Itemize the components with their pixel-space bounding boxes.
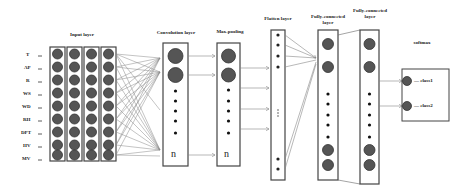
input-label-AP: AP xyxy=(24,65,31,70)
convolution-layer-title: Convolution layer xyxy=(150,30,202,36)
fc2-title-line2: layer xyxy=(348,14,392,20)
max-pooling-title: Max-pooling xyxy=(210,29,250,35)
fc1-title: Fully-connected layer xyxy=(306,14,350,26)
conv-n-label: n xyxy=(171,148,176,159)
input-to-conv-connections xyxy=(116,54,160,156)
fully-connected-layer-1 xyxy=(318,30,338,180)
input-label-HV: HV xyxy=(23,143,31,148)
pool-n-label: n xyxy=(224,148,229,159)
input-label-RH: RH xyxy=(23,117,31,122)
fully-connected-layer-2 xyxy=(360,30,379,184)
pool-to-flatten-arrows xyxy=(240,68,269,129)
fc2-to-softmax-arrows xyxy=(379,81,402,106)
input-label-MV: MV xyxy=(22,156,30,161)
input-label-DPT: DPT xyxy=(21,130,31,135)
conv-to-pool-arrows xyxy=(188,56,215,155)
input-label-WD: WD xyxy=(22,104,31,109)
input-label-T: T xyxy=(26,52,29,57)
fc1-to-fc2-connections xyxy=(338,30,360,184)
softmax-layer xyxy=(402,69,449,121)
input-layer-title: Input layer xyxy=(62,32,102,38)
output-label-class1: — class1 xyxy=(414,78,433,83)
softmax-title: softmax xyxy=(407,40,437,46)
fc1-title-line2: layer xyxy=(306,20,350,26)
flatten-to-fc1-connections xyxy=(285,35,316,169)
flatten-layer-title: Flatten layer xyxy=(258,16,298,22)
input-label-WS: WS xyxy=(23,91,31,96)
flatten-layer xyxy=(271,30,285,180)
fc2-title: Fully-connected layer xyxy=(348,8,392,20)
input-layer xyxy=(38,47,116,161)
input-label-R: R xyxy=(26,78,30,83)
output-label-class2: — class2 xyxy=(414,103,433,108)
